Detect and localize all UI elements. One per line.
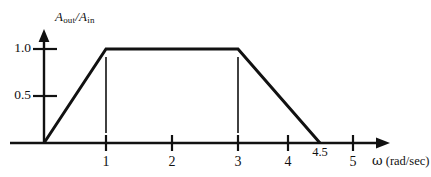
x-axis-title: ω (rad/sec): [372, 154, 429, 168]
x-tick-label-2: 2: [160, 155, 184, 169]
cutoff-annotation-label: 4.5: [303, 146, 337, 159]
y-axis-title-denominator-base: A: [79, 9, 87, 24]
x-tick-label-5: 5: [341, 155, 365, 169]
x-tick-label-4: 4: [276, 155, 300, 169]
y-tick-label-1-0: 1.0: [0, 41, 31, 55]
x-axis-arrowhead: [376, 138, 390, 149]
y-axis-arrowhead: [39, 29, 50, 42]
y-axis-title-denominator-sub: in: [87, 15, 94, 25]
y-tick-label-0-5: 0.5: [0, 88, 31, 102]
y-axis-title: Aout/Ain: [55, 10, 95, 23]
y-axis-title-numerator-base: A: [55, 9, 63, 24]
magnitude-response-curve: [44, 49, 320, 143]
amplitude-ratio-chart: Aout/Ain 1.0 0.5 1 2 3 4 5 4.5 ω (rad/se…: [0, 0, 431, 177]
omega-symbol: ω: [372, 153, 383, 168]
x-axis-unit-label: (rad/sec): [386, 154, 430, 168]
plot-area: [0, 0, 431, 177]
x-tick-label-1: 1: [94, 155, 118, 169]
y-axis-title-numerator-sub: out: [63, 15, 75, 25]
x-tick-label-3: 3: [226, 155, 250, 169]
